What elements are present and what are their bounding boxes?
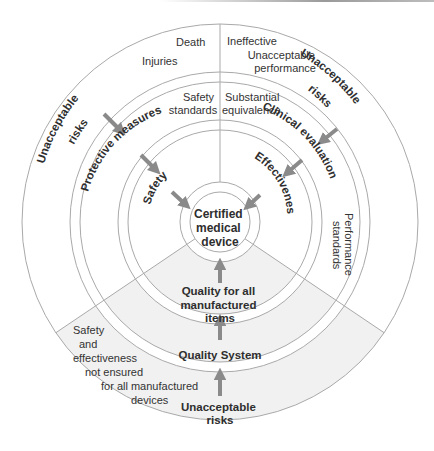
label-safety-standards: Safety standards xyxy=(169,91,218,116)
medical-device-certification-diagram: Certified medical device Death Injuries … xyxy=(0,0,434,451)
label-quality-system: Quality System xyxy=(178,349,261,361)
label-unacceptable-risks-left-2: risks xyxy=(65,116,90,146)
not-ensured-line-5: for all manufactured xyxy=(101,380,198,392)
center-line-2: medical xyxy=(196,221,241,235)
unacceptable-bottom-line-2: risks xyxy=(207,414,234,426)
label-death: Death xyxy=(176,36,205,48)
unacceptable-bottom-line-1: Unacceptable xyxy=(181,401,256,413)
performance-standards-line-1: Performance xyxy=(343,213,355,276)
arrow-unacceptable-to-clinical xyxy=(322,129,337,141)
not-ensured-line-4: not ensured xyxy=(85,366,143,378)
center-label: Certified medical device xyxy=(194,207,246,249)
safety-standards-line-1: Safety xyxy=(183,91,215,103)
performance-standards-line-2: standards xyxy=(331,221,343,270)
label-injuries: Injuries xyxy=(142,55,178,67)
label-unacceptable-risks-right-2: risks xyxy=(306,82,334,109)
label-ineffective: Ineffective xyxy=(227,35,277,47)
not-ensured-line-3: effectiveness xyxy=(73,352,138,364)
center-line-1: Certified xyxy=(194,207,243,221)
not-ensured-line-1: Safety xyxy=(73,324,105,336)
label-safety: Safety xyxy=(140,168,169,205)
label-performance-standards: Performance standards xyxy=(331,213,355,276)
arrow-safety-to-center xyxy=(172,192,186,205)
risks-left-text: risks xyxy=(65,116,90,146)
quality-items-line-1: Quality for all xyxy=(182,285,256,297)
quality-items-line-3: items xyxy=(205,312,235,324)
center-line-3: device xyxy=(201,235,239,249)
risks-right-text: risks xyxy=(306,82,334,109)
quality-items-line-2: manufactured xyxy=(180,299,256,311)
unacceptable-performance-line-2: performance xyxy=(254,62,316,74)
substantial-equivalence-line-1: Substantial xyxy=(225,91,279,103)
safety-text: Safety xyxy=(140,168,169,205)
arrow-protective-to-safety xyxy=(141,155,156,170)
not-ensured-line-2: and xyxy=(79,338,97,350)
not-ensured-line-6: devices xyxy=(131,394,169,406)
safety-standards-line-2: standards xyxy=(169,104,218,116)
